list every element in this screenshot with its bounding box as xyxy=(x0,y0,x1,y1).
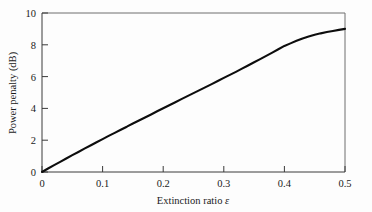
y-tick-label-6: 6 xyxy=(31,72,36,83)
x-tick-label-0-2: 0.2 xyxy=(157,178,170,189)
x-tick-label-0-4: 0.4 xyxy=(278,178,292,189)
chart-svg: 0 2 4 6 8 10 0 0.1 0.2 0.3 0.4 0.5 Extin… xyxy=(0,0,372,212)
y-tick-label-2: 2 xyxy=(31,135,36,146)
y-tick-label-10: 10 xyxy=(26,8,37,19)
x-axis-title-symbol: ε xyxy=(225,195,230,206)
x-tick-label-0: 0 xyxy=(39,178,44,189)
x-tick-label-0-5: 0.5 xyxy=(338,178,351,189)
figure-container: 0 2 4 6 8 10 0 0.1 0.2 0.3 0.4 0.5 Extin… xyxy=(0,0,372,212)
x-axis-title: Extinction ratio ε xyxy=(157,195,230,206)
y-axis-title: Power penalty (dB) xyxy=(7,51,19,134)
x-tick-label-0-1: 0.1 xyxy=(96,178,109,189)
x-axis-title-text: Extinction ratio xyxy=(157,195,225,206)
y-tick-label-8: 8 xyxy=(31,40,36,51)
y-tick-label-4: 4 xyxy=(31,103,37,114)
y-tick-label-0: 0 xyxy=(31,167,36,178)
x-tick-label-0-3: 0.3 xyxy=(217,178,230,189)
